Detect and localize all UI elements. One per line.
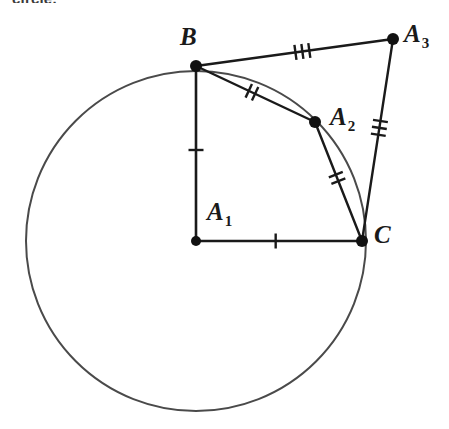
label-c: C bbox=[374, 222, 391, 247]
segment-A3-C-tick-3 bbox=[371, 134, 386, 136]
point-a2 bbox=[309, 116, 321, 128]
label-b: B bbox=[180, 24, 197, 49]
label-a2-subscript: 2 bbox=[348, 118, 356, 134]
point-a1 bbox=[191, 236, 201, 246]
label-a3-letter: A bbox=[404, 20, 421, 47]
segment-A3-C-tick-2 bbox=[372, 127, 387, 129]
segment-A3-C-tick-1 bbox=[373, 120, 388, 122]
point-a3 bbox=[387, 33, 399, 45]
point-b bbox=[190, 60, 202, 72]
label-a2-letter: A bbox=[330, 103, 347, 130]
label-a3: A3 bbox=[404, 21, 428, 46]
segment-B-A3-tick-2 bbox=[301, 44, 303, 59]
label-a2: A2 bbox=[330, 104, 354, 129]
label-a1-subscript: 1 bbox=[225, 213, 233, 229]
label-c-letter: C bbox=[374, 221, 391, 248]
point-c bbox=[356, 235, 368, 247]
label-b-letter: B bbox=[180, 23, 197, 50]
segment-B-A3-tick-3 bbox=[308, 43, 310, 58]
label-a1: A1 bbox=[207, 199, 231, 224]
geometry-figure: circle. A1BA2CA3 bbox=[0, 0, 449, 429]
label-a1-letter: A bbox=[207, 198, 224, 225]
label-a3-subscript: 3 bbox=[422, 35, 430, 51]
segment-B-A3-tick-1 bbox=[294, 45, 296, 60]
segment-A3-C bbox=[362, 39, 393, 241]
